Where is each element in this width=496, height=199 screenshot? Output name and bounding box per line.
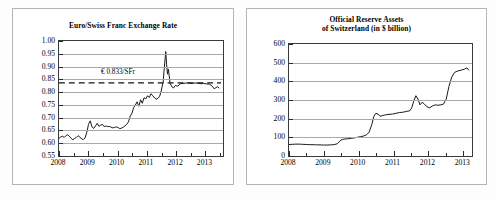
x-tick-mark-minor bbox=[446, 153, 447, 156]
x-tick-mark-minor bbox=[132, 153, 133, 156]
y-tick-mark bbox=[59, 54, 63, 55]
annotation-label: € 0.833/SFr bbox=[101, 68, 135, 76]
x-tick-mark-minor bbox=[103, 153, 104, 156]
plot-area-exchange-rate bbox=[58, 40, 224, 157]
y-tick-mark bbox=[289, 44, 293, 45]
x-tick-label: 2010 bbox=[109, 158, 124, 167]
x-tick-label: 2013 bbox=[197, 158, 212, 167]
gridline bbox=[289, 137, 472, 138]
gridline bbox=[289, 63, 472, 64]
x-tick-mark-minor bbox=[411, 153, 412, 156]
x-tick-label: 2012 bbox=[420, 158, 435, 167]
chart-panel-reserve-assets: Official Reserve Assets of Switzerland (… bbox=[246, 8, 487, 185]
gridline bbox=[59, 105, 223, 106]
y-tick-mark bbox=[289, 119, 293, 120]
plot-area-reserve-assets bbox=[288, 43, 473, 157]
y-tick-label: 200 bbox=[274, 113, 285, 122]
y-tick-label: 0.85 bbox=[42, 74, 55, 83]
gridline bbox=[59, 67, 223, 68]
x-tick-mark-minor bbox=[306, 153, 307, 156]
y-tick-label: 0.70 bbox=[42, 112, 55, 121]
gridline bbox=[59, 79, 223, 80]
y-tick-label: 300 bbox=[274, 95, 285, 104]
x-tick-label: 2008 bbox=[280, 158, 295, 167]
y-tick-label: 0.60 bbox=[42, 138, 55, 147]
y-tick-label: 0.95 bbox=[42, 48, 55, 57]
x-tick-mark-major bbox=[428, 151, 429, 156]
y-tick-mark bbox=[59, 130, 63, 131]
gridline bbox=[59, 54, 223, 55]
figure-container: Euro/Swiss Franc Exchange Rate 1.000.950… bbox=[0, 0, 496, 199]
y-tick-label: 0.75 bbox=[42, 99, 55, 108]
y-tick-label: 500 bbox=[274, 57, 285, 66]
x-tick-mark-major bbox=[463, 151, 464, 156]
y-tick-label: 0.90 bbox=[42, 61, 55, 70]
x-tick-mark-major bbox=[205, 151, 206, 156]
gridline bbox=[59, 92, 223, 93]
y-tick-label: 400 bbox=[274, 76, 285, 85]
x-tick-label: 2011 bbox=[385, 158, 400, 167]
chart-title-exchange-rate: Euro/Swiss Franc Exchange Rate bbox=[13, 21, 233, 30]
y-tick-mark bbox=[59, 79, 63, 80]
x-tick-mark-major bbox=[147, 151, 148, 156]
y-tick-mark bbox=[59, 156, 63, 157]
x-tick-label: 2012 bbox=[168, 158, 183, 167]
gridline bbox=[289, 81, 472, 82]
x-tick-mark-major bbox=[176, 151, 177, 156]
y-tick-label: 0.65 bbox=[42, 125, 55, 134]
x-tick-label: 2011 bbox=[138, 158, 153, 167]
x-tick-mark-major bbox=[88, 151, 89, 156]
x-tick-mark-major bbox=[394, 151, 395, 156]
gridline bbox=[59, 118, 223, 119]
x-tick-label: 2009 bbox=[315, 158, 330, 167]
y-tick-mark bbox=[59, 143, 63, 144]
y-tick-mark bbox=[59, 105, 63, 106]
x-tick-mark-minor bbox=[220, 153, 221, 156]
series-polyline bbox=[289, 68, 469, 145]
data-line-exchange-rate bbox=[59, 41, 223, 156]
chart-title-line: Official Reserve Assets bbox=[247, 15, 486, 24]
x-tick-mark-major bbox=[118, 151, 119, 156]
x-tick-mark-major bbox=[289, 151, 290, 156]
x-tick-label: 2013 bbox=[455, 158, 470, 167]
x-tick-mark-major bbox=[59, 151, 60, 156]
x-tick-label: 2010 bbox=[350, 158, 365, 167]
gridline bbox=[59, 143, 223, 144]
y-tick-mark bbox=[59, 41, 63, 42]
y-tick-label: 100 bbox=[274, 132, 285, 141]
y-tick-label: 1.00 bbox=[42, 36, 55, 45]
y-tick-mark bbox=[289, 63, 293, 64]
y-tick-mark bbox=[59, 67, 63, 68]
x-tick-mark-minor bbox=[162, 153, 163, 156]
x-tick-mark-minor bbox=[341, 153, 342, 156]
y-tick-mark bbox=[289, 137, 293, 138]
series-polyline bbox=[59, 52, 219, 140]
y-tick-label: 600 bbox=[274, 39, 285, 48]
y-tick-mark bbox=[289, 156, 293, 157]
x-tick-mark-major bbox=[324, 151, 325, 156]
chart-panel-exchange-rate: Euro/Swiss Franc Exchange Rate 1.000.950… bbox=[12, 8, 234, 185]
x-tick-label: 2008 bbox=[50, 158, 65, 167]
x-tick-mark-major bbox=[359, 151, 360, 156]
gridline bbox=[289, 119, 472, 120]
gridline bbox=[59, 130, 223, 131]
y-tick-mark bbox=[289, 81, 293, 82]
x-tick-mark-minor bbox=[74, 153, 75, 156]
x-tick-mark-minor bbox=[191, 153, 192, 156]
y-tick-mark bbox=[289, 100, 293, 101]
y-tick-label: 0.80 bbox=[42, 87, 55, 96]
x-tick-mark-minor bbox=[376, 153, 377, 156]
y-tick-mark bbox=[59, 92, 63, 93]
chart-title-line: Euro/Swiss Franc Exchange Rate bbox=[13, 21, 233, 30]
y-tick-mark bbox=[59, 118, 63, 119]
chart-title-reserve-assets: Official Reserve Assets of Switzerland (… bbox=[247, 15, 486, 33]
chart-title-line: of Switzerland (in $ billion) bbox=[247, 24, 486, 33]
x-tick-label: 2009 bbox=[80, 158, 95, 167]
gridline bbox=[289, 100, 472, 101]
